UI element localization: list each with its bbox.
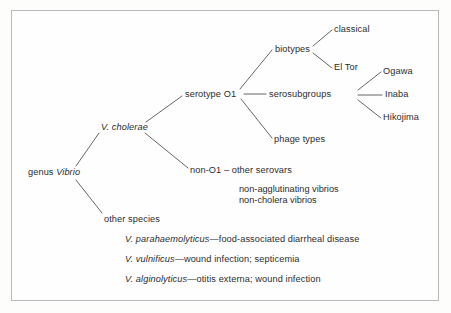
node-other-species: other species <box>104 214 160 225</box>
node-genus-vibrio-label: genus <box>28 167 56 177</box>
diagram-connector-lines <box>0 0 451 313</box>
edge-serosubgroups-hikojima <box>358 100 381 118</box>
node-biotypes: biotypes <box>275 44 310 55</box>
node-ogawa: Ogawa <box>383 66 413 77</box>
edge-cholerae-serotype <box>146 96 182 122</box>
node-v-cholerae: V. cholerae <box>101 122 148 133</box>
species-1-description: —food-associated diarrheal disease <box>209 234 359 244</box>
node-genus-vibrio: genus Vibrio <box>28 167 80 178</box>
node-non-o1: non-O1 – other serovars <box>190 165 292 176</box>
node-classical: classical <box>334 24 370 35</box>
species-2-description: —wound infection; septicemia <box>175 254 300 264</box>
node-inaba: Inaba <box>385 89 409 100</box>
edge-genus-cholerae <box>76 133 99 166</box>
edge-genus-other-species <box>76 180 102 213</box>
species-2-name: V. vulnificus <box>125 254 175 264</box>
edge-serotype-phagetypes <box>241 99 272 138</box>
edge-cholerae-nono1 <box>145 133 188 168</box>
note-non-agglutinating-vibrios: non-agglutinating vibrios <box>239 184 339 195</box>
species-3-description: —otitis externa; wound infection <box>187 274 320 284</box>
node-serotype-o1: serotype O1 <box>185 89 236 100</box>
edge-serosubgroups-ogawa <box>358 72 381 90</box>
node-phage-types: phage types <box>274 134 325 145</box>
list-item-v-parahaemolyticus: V. parahaemolyticus—food-associated diar… <box>125 234 359 245</box>
note-non-cholera-vibrios: non-cholera vibrios <box>239 195 317 206</box>
edge-biotypes-classical <box>313 30 332 46</box>
edge-biotypes-eltor <box>313 53 332 68</box>
diagram-page: classical El Tor biotypes Ogawa Inaba Hi… <box>0 0 451 313</box>
list-item-v-alginolyticus: V. alginolyticus—otitis externa; wound i… <box>125 274 321 285</box>
node-el-tor: El Tor <box>334 62 358 73</box>
node-genus-vibrio-italic: Vibrio <box>56 167 80 177</box>
species-1-name: V. parahaemolyticus <box>125 234 209 244</box>
edge-serotype-biotypes <box>240 50 272 89</box>
node-hikojima: Hikojima <box>383 112 419 123</box>
node-serosubgroups: serosubgroups <box>269 89 331 100</box>
list-item-v-vulnificus: V. vulnificus—wound infection; septicemi… <box>125 254 300 265</box>
species-3-name: V. alginolyticus <box>125 274 187 284</box>
